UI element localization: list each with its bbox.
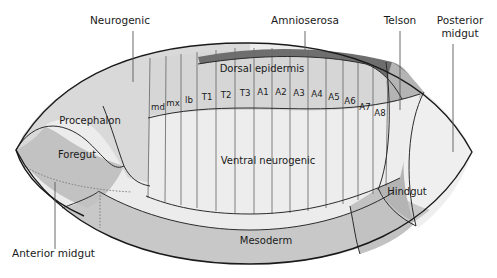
label-hindgut: Hindgut (387, 186, 427, 197)
segment-label-A2: A2 (275, 87, 286, 97)
segment-label-md: md (151, 102, 165, 112)
fate-map-figure: Neurogenic Amnioserosa Telson Posterior … (0, 0, 497, 278)
segment-label-lb: lb (185, 95, 193, 105)
label-dorsal-epidermis: Dorsal epidermis (220, 63, 305, 74)
segment-label-T3: T3 (239, 88, 251, 98)
segment-label-A6: A6 (344, 96, 355, 106)
segment-label-mx: mx (166, 98, 179, 108)
segment-label-A8: A8 (374, 108, 385, 118)
fate-map-svg: Neurogenic Amnioserosa Telson Posterior … (0, 0, 497, 278)
segment-label-A4: A4 (311, 89, 322, 99)
callout-neurogenic: Neurogenic (90, 14, 150, 26)
callout-telson: Telson (383, 14, 417, 26)
segment-label-A5: A5 (328, 92, 339, 102)
label-foregut: Foregut (58, 149, 96, 160)
label-ventral-neurogenic: Ventral neurogenic (221, 155, 316, 166)
label-mesoderm: Mesoderm (240, 235, 292, 246)
label-procephalon: Procephalon (59, 115, 121, 126)
callout-anterior-midgut: Anterior midgut (12, 247, 95, 259)
segment-label-A7: A7 (359, 102, 370, 112)
segment-label-T1: T1 (201, 92, 213, 102)
segment-label-T2: T2 (220, 90, 232, 100)
callout-amnioserosa: Amnioserosa (271, 14, 339, 26)
segment-label-A1: A1 (257, 87, 268, 97)
segment-label-A3: A3 (293, 88, 304, 98)
callout-posterior-midgut-line2: midgut (441, 27, 478, 39)
callout-posterior-midgut-line1: Posterior (437, 14, 484, 26)
